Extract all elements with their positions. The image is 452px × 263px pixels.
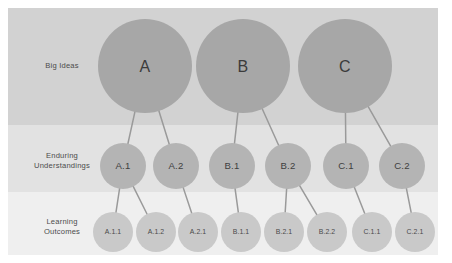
node-label-C.1: C.1 <box>338 160 354 171</box>
node-label-A.2: A.2 <box>169 160 184 171</box>
diagram-root: ABCA.1A.2B.1B.2C.1C.2A.1.1A.1.2A.2.1B.1.… <box>0 0 452 263</box>
node-B.2.1[interactable]: B.2.1 <box>264 212 304 252</box>
node-C.1[interactable]: C.1 <box>323 143 369 189</box>
node-label-A: A <box>140 58 151 75</box>
node-label-A.1: A.1 <box>116 160 131 171</box>
node-label-B: B <box>238 58 249 75</box>
band-label-learning-outcomes: LearningOutcomes <box>44 217 80 236</box>
node-label-A.2.1: A.2.1 <box>190 228 207 235</box>
node-B.1[interactable]: B.1 <box>209 143 255 189</box>
node-label-C: C <box>339 58 351 75</box>
node-C.2.1[interactable]: C.2.1 <box>395 212 435 252</box>
node-label-C.1.1: C.1.1 <box>364 228 381 235</box>
node-A[interactable]: A <box>98 19 192 113</box>
node-B[interactable]: B <box>196 19 290 113</box>
hierarchy-diagram-canvas: ABCA.1A.2B.1B.2C.1C.2A.1.1A.1.2A.2.1B.1.… <box>0 0 452 263</box>
node-C[interactable]: C <box>298 19 392 113</box>
node-A.2.1[interactable]: A.2.1 <box>178 212 218 252</box>
node-label-A.1.1: A.1.1 <box>105 228 122 235</box>
node-A.2[interactable]: A.2 <box>153 143 199 189</box>
node-label-C.2: C.2 <box>394 160 410 171</box>
node-B.2.2[interactable]: B.2.2 <box>307 212 347 252</box>
node-B.1.1[interactable]: B.1.1 <box>221 212 261 252</box>
node-label-B.1.1: B.1.1 <box>233 228 250 235</box>
node-label-B.1: B.1 <box>225 160 240 171</box>
node-C.1.1[interactable]: C.1.1 <box>352 212 392 252</box>
node-label-B.2.1: B.2.1 <box>276 228 293 235</box>
node-label-C.2.1: C.2.1 <box>407 228 424 235</box>
node-A.1.2[interactable]: A.1.2 <box>136 212 176 252</box>
node-B.2[interactable]: B.2 <box>265 143 311 189</box>
node-label-B.2.2: B.2.2 <box>319 228 336 235</box>
node-label-B.2: B.2 <box>281 160 296 171</box>
node-label-A.1.2: A.1.2 <box>148 228 165 235</box>
node-A.1.1[interactable]: A.1.1 <box>93 212 133 252</box>
node-A.1[interactable]: A.1 <box>100 143 146 189</box>
band-label-big-ideas: Big Ideas <box>45 61 78 70</box>
node-C.2[interactable]: C.2 <box>379 143 425 189</box>
